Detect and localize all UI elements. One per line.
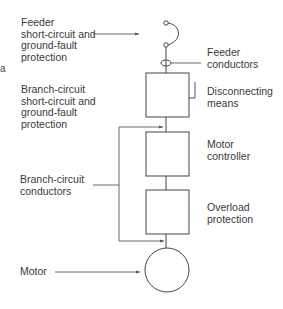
label-line: Branch-circuit xyxy=(21,84,96,96)
label-line: ground-fault xyxy=(21,107,96,119)
label-line: Overload xyxy=(207,202,253,214)
motor-icon xyxy=(145,248,189,292)
label-line: protection xyxy=(207,214,253,226)
label-motor-controller: Motor controller xyxy=(207,139,250,162)
disconnect-bracket xyxy=(189,82,195,98)
overload-box xyxy=(146,190,189,234)
label-line: Feeder xyxy=(207,47,258,59)
label-line: Motor xyxy=(207,139,250,151)
feeder-terminal-top-icon xyxy=(164,21,168,25)
label-line: protection xyxy=(21,119,96,131)
label-line: Disconnecting xyxy=(207,86,273,98)
motor-controller-box xyxy=(146,132,189,176)
feeder-breaker-arc xyxy=(168,23,179,45)
label-branch-conductors: Branch-circuit conductors xyxy=(20,174,84,197)
label-disconnecting-means: Disconnecting means xyxy=(207,86,273,109)
disconnect-box xyxy=(146,73,189,117)
label-line: protection xyxy=(21,52,96,64)
label-line: controller xyxy=(207,151,250,163)
label-feeder-conductors: Feeder conductors xyxy=(207,47,258,70)
label-line: means xyxy=(207,98,273,110)
label-line: Motor xyxy=(20,266,47,278)
label-overload-protection: Overload protection xyxy=(207,202,253,225)
label-line: ground-fault xyxy=(21,40,96,52)
label-feeder-protection: Feeder short-circuit and ground-fault pr… xyxy=(21,17,96,63)
label-motor: Motor xyxy=(20,266,47,278)
label-line: conductors xyxy=(207,59,258,71)
feeder-terminal-bottom-icon xyxy=(164,43,168,47)
label-line: Branch-circuit xyxy=(20,174,84,186)
label-line: conductors xyxy=(20,186,84,198)
label-branch-protection: Branch-circuit short-circuit and ground-… xyxy=(21,84,96,130)
label-line: Feeder xyxy=(21,17,96,29)
